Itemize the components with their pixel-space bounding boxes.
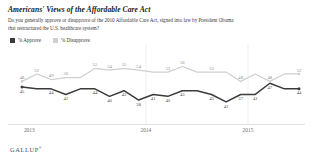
legend-swatch-disapprove-icon [53, 38, 58, 43]
legend-label-approve: % Approve [18, 37, 41, 43]
legend-item-approve: % Approve [10, 37, 41, 43]
page-title: Americans' Views of the Affordable Care … [8, 6, 305, 14]
data-point-label: 37 [238, 96, 243, 101]
data-point-label: 41 [63, 96, 68, 101]
data-point-label: 48 [267, 75, 272, 80]
data-point-label: 49 [49, 73, 54, 78]
data-point-label: 48 [20, 75, 25, 80]
gallup-logo: GALLUP® [10, 146, 42, 153]
data-point-marker [298, 73, 301, 76]
gallup-brand-text: GALLUP [10, 146, 39, 153]
data-point-label: 43 [180, 92, 185, 97]
data-point-label: 40 [107, 98, 112, 103]
data-point-label: 53 [165, 66, 170, 71]
data-point-label: 48 [238, 75, 243, 80]
data-point-label: 52 [297, 68, 302, 73]
data-point-label: 50 [63, 71, 68, 76]
data-point-label: 38 [136, 102, 141, 107]
x-axis-tick-label: 2014 [141, 127, 152, 133]
data-point-label: 52 [34, 68, 39, 73]
data-point-label: 54 [136, 64, 141, 69]
legend-swatch-approve-icon [10, 38, 15, 43]
data-point-label: 43 [209, 96, 214, 101]
legend-label-disapprove: % Disapprove [61, 37, 90, 43]
data-point-label: 43 [122, 92, 127, 97]
x-axis-tick-label: 2015 [243, 127, 254, 133]
x-axis-tick-label: 2013 [24, 127, 35, 133]
data-point-label: 55 [93, 62, 98, 67]
data-point-label: 47 [267, 85, 272, 90]
data-point-label: 41 [253, 96, 258, 101]
chart-card: Americans' Views of the Affordable Care … [0, 0, 313, 160]
data-point-label: 44 [297, 91, 302, 96]
data-point-label: 44 [93, 91, 98, 96]
legend-item-disapprove: % Disapprove [53, 37, 90, 43]
x-axis: 201320142015 [8, 125, 305, 137]
data-point-label: 41 [224, 104, 229, 109]
data-point-marker [21, 80, 24, 83]
data-point-label: 54 [107, 64, 112, 69]
data-point-label: 56 [180, 60, 185, 65]
data-point-label: 53 [209, 66, 214, 71]
line-chart: 4852495055545554535653484852454441444043… [8, 45, 305, 125]
data-point-label: 41 [151, 96, 156, 101]
data-point-label: 40 [165, 98, 170, 103]
gallup-trademark: ® [39, 146, 42, 150]
data-point-label: 45 [20, 89, 25, 94]
chart-legend: % Approve % Disapprove [10, 37, 305, 43]
chart-subtitle: Do you generally approve or disapprove o… [8, 17, 240, 33]
data-point-label: 44 [49, 91, 54, 96]
data-point-label: 55 [122, 62, 127, 67]
plot-area: 4852495055545554535653484852454441444043… [8, 45, 305, 125]
